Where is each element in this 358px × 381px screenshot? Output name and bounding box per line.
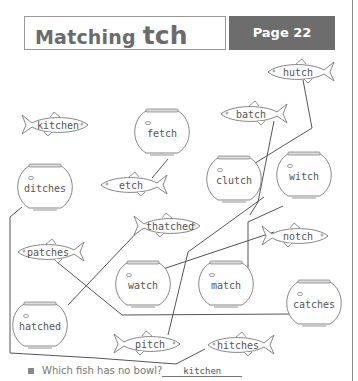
fish-fin xyxy=(129,172,139,177)
fish-label: thatched xyxy=(146,221,194,232)
bowl-ditches[interactable]: ditches xyxy=(18,164,73,210)
bowl-rim xyxy=(298,280,330,283)
fish-hutch[interactable]: hutch xyxy=(268,59,334,83)
fish-label: batch xyxy=(236,109,266,120)
bowl-witch[interactable]: witch xyxy=(277,152,332,198)
bowl-rim xyxy=(218,156,250,159)
fish-thatched[interactable]: thatched xyxy=(134,213,200,237)
bowl-label: clutch xyxy=(216,175,252,186)
fish-fin xyxy=(142,331,152,336)
question-text: Which fish has no bowl? xyxy=(42,365,162,376)
line-patches-catches xyxy=(57,262,295,315)
fish-fin xyxy=(50,112,60,117)
bowl-catches[interactable]: catches xyxy=(287,280,342,326)
fish-fin xyxy=(44,132,52,136)
matching-worksheet: fetchditchesclutchwitchwatchmatchhatched… xyxy=(0,0,358,381)
fish-batch[interactable]: batch xyxy=(221,101,287,125)
fish-fin xyxy=(136,351,144,355)
bowl-clutch[interactable]: clutch xyxy=(207,156,262,202)
bowl-label: hatched xyxy=(19,321,61,332)
fish-label: notch xyxy=(283,231,313,242)
fish-fin xyxy=(46,239,56,244)
bowl-label: fetch xyxy=(147,128,177,139)
bowl-rim xyxy=(146,109,178,112)
bowl-rim xyxy=(127,261,159,264)
bowl-rim xyxy=(210,261,242,264)
fish-label: hitches xyxy=(217,340,259,351)
fish-fin xyxy=(156,233,164,237)
fish-fin xyxy=(137,192,145,196)
fish-fin xyxy=(290,223,300,228)
fish-fin xyxy=(236,332,246,337)
fish-fin xyxy=(257,121,265,125)
bowl-rim xyxy=(29,164,61,167)
fish-label: kitchen xyxy=(37,120,79,131)
question-row: Which fish has no bowl?kitchen xyxy=(28,365,242,377)
fish-etch[interactable]: etch xyxy=(101,172,167,196)
fish-hitches[interactable]: hitches xyxy=(208,332,274,356)
fish-fin xyxy=(162,213,172,218)
fish-patches[interactable]: patches xyxy=(18,239,84,263)
fish-fin xyxy=(304,79,312,83)
fish-fin xyxy=(296,59,306,64)
fish-fin xyxy=(249,101,259,106)
bowl-label: watch xyxy=(128,280,158,291)
bowl-rim xyxy=(24,302,56,305)
bullet-square-icon xyxy=(28,368,34,374)
bowl-fetch[interactable]: fetch xyxy=(135,109,190,155)
fish-label: hutch xyxy=(283,67,313,78)
fish-notch[interactable]: notch xyxy=(262,223,328,247)
fish-group: hutchbatchkitchenetchthatchednotchpatche… xyxy=(18,59,334,356)
fish-label: etch xyxy=(119,180,143,191)
bowl-label: catches xyxy=(293,299,335,310)
fish-fin xyxy=(54,259,62,263)
bowl-label: ditches xyxy=(24,183,66,194)
fish-label: patches xyxy=(27,247,69,258)
bowl-label: witch xyxy=(289,171,319,182)
fish-fin xyxy=(244,352,252,356)
fish-kitchen[interactable]: kitchen xyxy=(22,112,88,136)
bowl-label: match xyxy=(211,280,241,291)
fish-pitch[interactable]: pitch xyxy=(114,331,180,355)
bowl-hatched[interactable]: hatched xyxy=(13,302,68,348)
answer-field[interactable]: kitchen xyxy=(162,366,242,377)
fish-label: pitch xyxy=(135,339,165,350)
bowl-match[interactable]: match xyxy=(199,261,254,307)
bowl-watch[interactable]: watch xyxy=(116,261,171,307)
line-etch-fetch xyxy=(152,159,168,178)
fish-fin xyxy=(284,243,292,247)
bowl-rim xyxy=(288,152,320,155)
